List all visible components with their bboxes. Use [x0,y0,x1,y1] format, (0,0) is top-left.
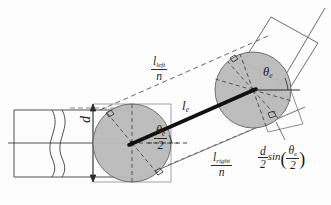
fraction-denominator: 2 [286,159,299,171]
fraction-l-left-n: lleft n [151,55,167,83]
label-d-over-2-sin-theta-over-2: d 2 sin( θe 2 ) [258,144,305,172]
fraction-denominator: n [211,166,232,178]
label-diameter-d: d [79,116,93,123]
break-curve-right [60,110,65,177]
label-l-e: le [182,99,189,114]
pipe-break-symbol [50,110,65,177]
pipe-geometry-figure: lleft n lright n le θe θe 2 d d 2 sin( θ… [0,0,331,205]
sin-function-name: sin [268,150,281,162]
fraction-l-right-n: lright n [211,151,232,179]
fraction-d-2: d 2 [258,145,268,170]
fraction-denominator: 2 [154,139,167,152]
fraction-denominator: n [151,70,167,82]
fraction-numerator: lright [211,151,232,166]
fraction-denominator: 2 [258,158,268,170]
tilted-wall-lower [290,88,303,124]
label-l-left-over-n: lleft n [151,55,167,83]
d-arrow-top [90,104,95,111]
fraction-numerator: θe [154,124,167,139]
right-center-point [251,88,255,92]
fraction-numerator: d [258,145,268,158]
theta-subscript: e [269,71,272,80]
dsin-leader-line [276,122,285,140]
fraction-numerator: θe [286,144,299,159]
fraction-numerator: lleft [151,55,167,70]
fraction-theta-2: θe 2 [154,124,167,151]
label-theta-e: θe [263,66,273,80]
left-center-point [130,141,134,145]
d-arrow-bottom [90,175,95,182]
figure-drawing-canvas [0,0,331,205]
close-paren: ) [299,149,305,169]
label-theta-e-over-2: θe 2 [154,124,167,151]
fraction-theta-2-inner: θe 2 [286,144,299,172]
l-e-subscript: e [186,105,190,114]
label-l-right-over-n: lright n [211,151,232,179]
break-curve-left [50,110,55,177]
tilted-pipe-end-cap [268,124,303,132]
